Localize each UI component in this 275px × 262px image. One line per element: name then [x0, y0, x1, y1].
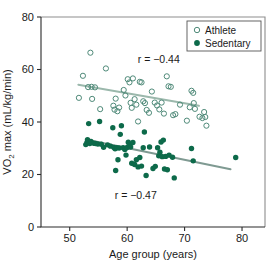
data-point-athlete [184, 118, 189, 123]
y-tick-label-0: 0 [28, 221, 34, 233]
data-point-athlete [103, 66, 108, 71]
data-point-sedentary [110, 125, 115, 130]
data-point-athlete [76, 95, 81, 100]
y-axis-label-part1: VO [1, 158, 13, 174]
data-point-athlete [88, 50, 93, 55]
data-point-sedentary [147, 144, 152, 149]
legend-label-athlete: Athlete [205, 25, 237, 36]
x-tick-label-70: 70 [178, 232, 190, 244]
data-point-sedentary [141, 145, 146, 150]
data-point-sedentary [130, 140, 135, 145]
annotation-correlation-athlete: r = −0.44 [138, 53, 180, 65]
data-point-athlete [90, 96, 95, 101]
legend-marker-sedentary [194, 40, 200, 46]
series-sedentary [83, 119, 238, 181]
y-axis-label-text: VO2 max (mL/kg/min) [1, 69, 16, 174]
data-point-sedentary [165, 167, 170, 172]
data-point-sedentary [118, 132, 123, 137]
data-point-athlete [157, 107, 162, 112]
legend: AthleteSedentary [187, 21, 261, 51]
data-point-athlete [159, 100, 164, 105]
data-point-sedentary [142, 129, 147, 134]
data-point-athlete [130, 76, 135, 81]
data-point-athlete [149, 89, 154, 94]
data-point-athlete [135, 119, 140, 124]
data-point-sedentary [233, 155, 238, 160]
y-axis-label-part2: max (mL/kg/min) [1, 69, 13, 154]
y-tick-label-20: 20 [22, 168, 34, 180]
data-point-athlete [192, 106, 197, 111]
data-point-sedentary [161, 137, 166, 142]
y-axis-label: VO2 max (mL/kg/min) [1, 69, 16, 174]
data-point-sedentary [113, 168, 118, 173]
data-point-sedentary [170, 154, 175, 159]
data-point-sedentary [191, 158, 196, 163]
vo2max-scatter-plot: 02040608050607080Age group (years)VO2 ma… [0, 0, 275, 262]
data-point-sedentary [139, 163, 144, 168]
data-point-sedentary [137, 155, 142, 160]
data-point-athlete [132, 97, 137, 102]
data-point-athlete [134, 102, 139, 107]
data-point-athlete [204, 123, 209, 128]
data-point-athlete [98, 107, 103, 112]
data-point-athlete [161, 111, 166, 116]
x-tick-label-80: 80 [236, 232, 248, 244]
data-point-sedentary [153, 164, 158, 169]
data-point-sedentary [143, 173, 148, 178]
y-tick-label-40: 40 [22, 116, 34, 128]
data-point-sedentary [189, 146, 194, 151]
x-tick-label-60: 60 [121, 232, 133, 244]
data-point-athlete [164, 74, 169, 79]
data-point-athlete [187, 105, 192, 110]
data-point-sedentary [97, 119, 102, 124]
data-point-athlete [113, 96, 118, 101]
x-axis-label: Age group (years) [109, 248, 197, 260]
data-point-sedentary [172, 175, 177, 180]
data-point-athlete [80, 73, 85, 78]
chart-figure: 02040608050607080Age group (years)VO2 ma… [0, 0, 275, 262]
data-point-sedentary [115, 157, 120, 162]
y-tick-label-80: 80 [22, 11, 34, 23]
x-tick-label-50: 50 [64, 232, 76, 244]
data-point-athlete [202, 109, 207, 114]
data-point-sedentary [119, 123, 124, 128]
annotation-correlation-sedentary: r = −0.47 [115, 189, 157, 201]
y-tick-label-60: 60 [22, 63, 34, 75]
data-point-sedentary [86, 121, 91, 126]
data-point-sedentary [123, 152, 128, 157]
legend-label-sedentary: Sedentary [205, 38, 251, 49]
